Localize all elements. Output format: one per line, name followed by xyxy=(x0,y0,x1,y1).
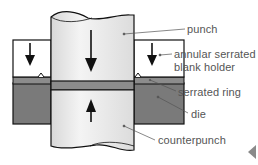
counterpunch xyxy=(51,90,134,151)
punch xyxy=(51,12,134,83)
label-blank-holder-2: blank holder xyxy=(174,61,235,74)
blank xyxy=(51,81,134,90)
label-punch: punch xyxy=(187,23,217,36)
die-left xyxy=(13,83,51,124)
sheet-strip-right xyxy=(134,77,184,84)
label-serrated-ring: serrated ring xyxy=(178,86,241,99)
label-die: die xyxy=(191,108,206,121)
previous-triangle-left-icon[interactable] xyxy=(248,145,256,159)
die-right xyxy=(134,83,184,124)
label-counterpunch: counterpunch xyxy=(158,134,226,147)
sheet-strip-left xyxy=(13,77,51,84)
label-blank-holder-1: annular serrated xyxy=(174,48,256,61)
